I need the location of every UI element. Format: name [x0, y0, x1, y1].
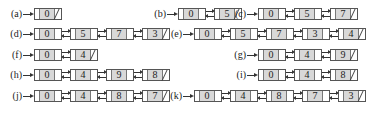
node-key: 0	[200, 91, 215, 101]
node-chain: 05734	[194, 28, 366, 40]
list-node: 4	[294, 49, 322, 61]
double-link-arrow-icon	[322, 69, 330, 81]
double-link-arrow-icon	[62, 69, 70, 81]
list-node: 0	[194, 90, 222, 102]
list-d: (d)0573	[2, 27, 170, 41]
node-key: 4	[300, 70, 315, 80]
list-label: (f)	[2, 48, 22, 62]
list-label: (h)	[2, 68, 22, 82]
list-node: 0	[34, 8, 62, 20]
list-node: 0	[194, 28, 222, 40]
double-link-arrow-icon	[330, 90, 338, 102]
head-pointer-arrow-icon	[22, 48, 34, 62]
list-c: (c)057	[226, 7, 358, 21]
node-key: 5	[300, 9, 315, 19]
node-key: 7	[336, 9, 351, 19]
node-chain: 0487	[34, 90, 170, 102]
node-key: 3	[308, 29, 323, 39]
list-label: (j)	[2, 89, 22, 103]
double-link-arrow-icon	[222, 28, 230, 40]
head-pointer-arrow-icon	[182, 89, 194, 103]
double-link-arrow-icon	[258, 28, 266, 40]
head-pointer-arrow-icon	[22, 7, 34, 21]
node-key: 8	[112, 91, 127, 101]
list-node: 4	[70, 90, 98, 102]
head-pointer-arrow-icon	[246, 68, 258, 82]
list-label: (b)	[146, 7, 166, 21]
node-key: 4	[300, 50, 315, 60]
head-pointer-arrow-icon	[22, 89, 34, 103]
node-chain: 04873	[194, 90, 366, 102]
double-link-arrow-icon	[330, 28, 338, 40]
node-key: 0	[200, 29, 215, 39]
list-node: 8	[106, 90, 134, 102]
list-node: 4	[294, 69, 322, 81]
double-link-arrow-icon	[98, 90, 106, 102]
list-node: 7	[302, 90, 330, 102]
node-chain: 049	[258, 49, 358, 61]
list-node: 0	[258, 49, 286, 61]
nil-pointer-icon	[351, 50, 357, 60]
double-link-arrow-icon	[286, 69, 294, 81]
double-link-arrow-icon	[98, 69, 106, 81]
node-key: 0	[40, 70, 55, 80]
head-pointer-arrow-icon	[246, 48, 258, 62]
list-node: 0	[34, 28, 62, 40]
list-node: 4	[70, 49, 98, 61]
nil-pointer-icon	[55, 9, 61, 19]
node-key: 3	[344, 91, 359, 101]
node-key: 8	[272, 91, 287, 101]
list-node: 4	[70, 69, 98, 81]
double-link-arrow-icon	[206, 8, 214, 20]
node-key: 8	[148, 70, 163, 80]
list-label: (d)	[2, 27, 22, 41]
list-label: (a)	[2, 7, 22, 21]
list-node: 5	[230, 28, 258, 40]
nil-pointer-icon	[351, 9, 357, 19]
head-pointer-arrow-icon	[22, 27, 34, 41]
node-key: 4	[76, 50, 91, 60]
nil-pointer-icon	[359, 29, 365, 39]
double-link-arrow-icon	[134, 69, 142, 81]
node-key: 3	[148, 29, 163, 39]
list-node: 8	[142, 69, 170, 81]
node-chain: 0498	[34, 69, 170, 81]
double-link-arrow-icon	[134, 28, 142, 40]
list-node: 0	[258, 69, 286, 81]
node-key: 5	[236, 29, 251, 39]
node-key: 7	[272, 29, 287, 39]
list-node: 4	[230, 90, 258, 102]
double-link-arrow-icon	[294, 28, 302, 40]
list-label: (c)	[226, 7, 246, 21]
node-key: 0	[264, 70, 279, 80]
node-key: 0	[40, 50, 55, 60]
double-link-arrow-icon	[322, 8, 330, 20]
list-node: 0	[258, 8, 286, 20]
list-node: 7	[106, 28, 134, 40]
node-key: 5	[76, 29, 91, 39]
node-key: 4	[344, 29, 359, 39]
node-key: 4	[76, 91, 91, 101]
double-link-arrow-icon	[322, 49, 330, 61]
node-key: 0	[40, 9, 55, 19]
node-key: 7	[112, 29, 127, 39]
node-chain: 057	[258, 8, 358, 20]
list-label: (i)	[226, 68, 246, 82]
double-link-arrow-icon	[258, 90, 266, 102]
double-link-arrow-icon	[62, 28, 70, 40]
node-key: 0	[40, 29, 55, 39]
nil-pointer-icon	[351, 70, 357, 80]
list-k: (k)04873	[162, 89, 366, 103]
node-chain: 048	[258, 69, 358, 81]
node-chain: 0	[34, 8, 62, 20]
head-pointer-arrow-icon	[166, 7, 178, 21]
double-link-arrow-icon	[62, 49, 70, 61]
list-label: (k)	[162, 89, 182, 103]
list-node: 0	[34, 49, 62, 61]
double-link-arrow-icon	[98, 28, 106, 40]
head-pointer-arrow-icon	[246, 7, 258, 21]
list-node: 0	[34, 90, 62, 102]
node-key: 7	[148, 91, 163, 101]
list-label: (e)	[162, 27, 182, 41]
node-chain: 04	[34, 49, 98, 61]
